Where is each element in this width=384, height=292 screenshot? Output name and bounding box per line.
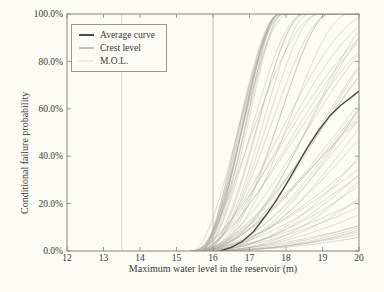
svg-text:80.0%: 80.0% xyxy=(38,57,63,67)
chart-canvas: 1213141516171819200.0%20.0%40.0%60.0%80.… xyxy=(0,0,384,292)
svg-text:13: 13 xyxy=(99,253,109,263)
svg-text:12: 12 xyxy=(62,253,72,263)
y-axis-label: Conditional failure probability xyxy=(19,92,30,214)
svg-text:17: 17 xyxy=(245,253,255,263)
legend-item-mol: M.O.L. xyxy=(79,55,155,67)
svg-text:19: 19 xyxy=(318,253,328,263)
svg-text:14: 14 xyxy=(135,253,145,263)
legend-label-crest-level: Crest level xyxy=(100,42,141,54)
svg-text:60.0%: 60.0% xyxy=(38,104,63,114)
svg-text:20.0%: 20.0% xyxy=(38,199,63,209)
fragility-curves-chart: 1213141516171819200.0%20.0%40.0%60.0%80.… xyxy=(0,0,384,292)
mol-line-swatch xyxy=(79,60,94,62)
average-curve-line-swatch xyxy=(79,34,94,36)
legend-item-crest-level: Crest level xyxy=(79,42,155,54)
svg-text:0.0%: 0.0% xyxy=(43,246,63,256)
svg-text:15: 15 xyxy=(172,253,182,263)
svg-text:40.0%: 40.0% xyxy=(38,151,63,161)
svg-text:18: 18 xyxy=(281,253,291,263)
chart-legend: Average curve Crest level M.O.L. xyxy=(71,24,167,72)
svg-text:16: 16 xyxy=(208,253,218,263)
svg-text:20: 20 xyxy=(354,253,364,263)
legend-label-mol: M.O.L. xyxy=(100,55,128,67)
crest-level-line-swatch xyxy=(79,47,94,49)
legend-item-average-curve: Average curve xyxy=(79,29,155,41)
svg-text:100.0%: 100.0% xyxy=(34,9,63,19)
x-axis-label: Maximum water level in the reservoir (m) xyxy=(67,263,359,274)
legend-label-average-curve: Average curve xyxy=(100,29,155,41)
